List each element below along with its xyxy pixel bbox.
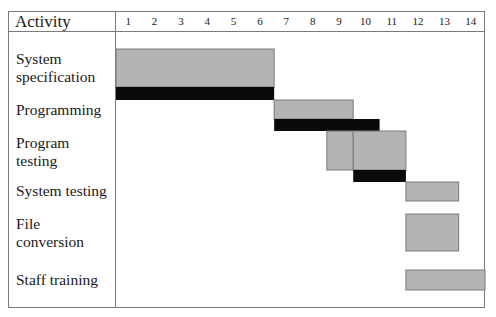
- planned-bar-file-conversion: [406, 214, 459, 251]
- planned-bar-program-testing-1: [327, 131, 353, 170]
- actual-bar-program-testing: [353, 170, 406, 182]
- planned-bar-program-testing-2: [353, 131, 406, 170]
- planned-bar-system-specification: [116, 49, 274, 87]
- planned-bar-system-testing: [406, 182, 459, 201]
- gantt-bars: [0, 0, 496, 317]
- actual-bar-system-specification: [116, 87, 274, 100]
- planned-bar-staff-training: [406, 270, 485, 290]
- actual-bar-programming: [274, 119, 379, 131]
- planned-bar-programming: [274, 100, 353, 119]
